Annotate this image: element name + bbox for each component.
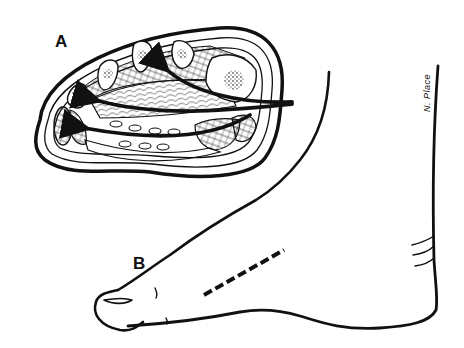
incision-line [204, 250, 284, 295]
medical-illustration: A B N. Place [0, 0, 464, 348]
cross-section-a [36, 28, 292, 177]
panel-label-a: A [55, 32, 67, 52]
illustration-canvas [0, 0, 464, 348]
panel-label-b: B [133, 254, 145, 274]
toenail [104, 299, 132, 304]
artist-signature: N. Place [422, 74, 432, 112]
